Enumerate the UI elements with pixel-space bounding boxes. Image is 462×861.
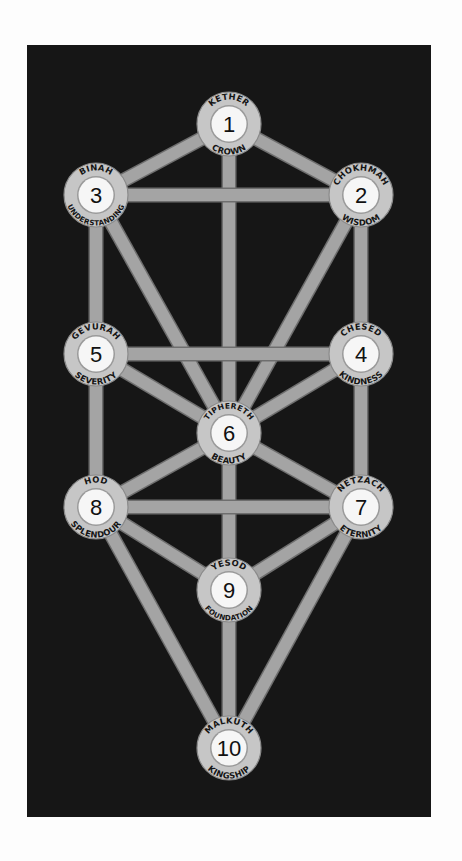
sefira-number: 5 <box>90 342 102 367</box>
sefira-chesed: CHESEDKINDNESS4 <box>329 321 393 386</box>
sefira-number: 6 <box>223 421 235 446</box>
sefira-number: 10 <box>217 736 241 761</box>
sefira-number: 9 <box>223 578 235 603</box>
sefira-gevurah: GEVURAHSEVERITY5 <box>64 321 128 386</box>
sefira-malkuth: MALKUTHKINGSHIP10 <box>197 715 261 780</box>
sefira-hod: HODSPLENDOUR8 <box>64 474 128 539</box>
sefira-number: 8 <box>90 495 102 520</box>
tree-of-life-figure: KETHERCROWN1CHOKHMAHWISDOM2BINAHUNDERSTA… <box>0 0 462 861</box>
sefira-number: 7 <box>355 495 367 520</box>
sefira-number: 1 <box>223 112 235 137</box>
sefira-number: 4 <box>355 342 367 367</box>
sefira-binah: BINAHUNDERSTANDING3 <box>64 162 128 227</box>
sefira-kether: KETHERCROWN1 <box>197 91 261 156</box>
sefira-number: 3 <box>90 183 102 208</box>
sefira-chokhmah: CHOKHMAHWISDOM2 <box>329 162 393 227</box>
sefira-netzach: NETZACHETERNITY7 <box>329 474 393 539</box>
tree-of-life-diagram: KETHERCROWN1CHOKHMAHWISDOM2BINAHUNDERSTA… <box>0 0 462 861</box>
sefira-tiphereth: TIPHERETHBEAUTY6 <box>197 401 261 466</box>
sefira-yesod: YESODFOUNDATION9 <box>197 557 261 622</box>
sefira-number: 2 <box>355 183 367 208</box>
